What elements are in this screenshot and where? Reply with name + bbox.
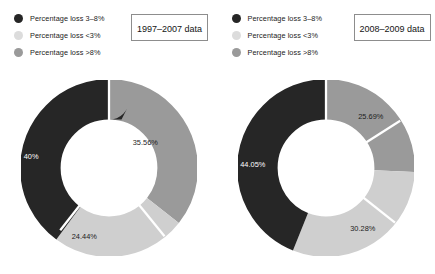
panel-title: 2008–2009 data <box>360 24 425 34</box>
legend-item-loss-gt8: Percentage loss >8% <box>232 47 322 58</box>
legend-swatch-light-icon <box>14 31 23 40</box>
legend-item-label: Percentage loss <3% <box>248 31 319 40</box>
legend-item-label: Percentage loss 3–8% <box>248 14 322 23</box>
panel-title: 1997–2007 data <box>137 24 202 34</box>
legend-left: Percentage loss 3–8% Percentage loss <3%… <box>14 13 104 58</box>
panel-title-box-right: 2008–2009 data <box>354 14 431 41</box>
legend-item-loss-3-8: Percentage loss 3–8% <box>232 13 322 24</box>
legend-item-loss-lt3: Percentage loss <3% <box>14 30 104 41</box>
donut-area-right: 25.69% 30.28% 44.05% <box>218 78 435 274</box>
legend-item-loss-3-8: Percentage loss 3–8% <box>14 13 104 24</box>
legend-item-loss-gt8: Percentage loss >8% <box>14 47 104 58</box>
legend-item-label: Percentage loss >8% <box>30 48 101 57</box>
legend-swatch-medium-icon <box>232 48 241 57</box>
legend-swatch-light-icon <box>232 31 241 40</box>
legend-item-label: Percentage loss <3% <box>30 31 101 40</box>
legend-item-loss-lt3: Percentage loss <3% <box>232 30 322 41</box>
legend-swatch-dark-icon <box>232 14 241 23</box>
donut-chart-figure: Percentage loss 3–8% Percentage loss <3%… <box>0 0 435 274</box>
panel-title-box-left: 1997–2007 data <box>131 14 208 41</box>
legend-item-label: Percentage loss >8% <box>248 48 319 57</box>
donut-chart-right: 25.69% 30.28% 44.05% <box>238 80 414 256</box>
legend-swatch-medium-icon <box>14 48 23 57</box>
legend-right: Percentage loss 3–8% Percentage loss <3%… <box>232 13 322 58</box>
legend-swatch-dark-icon <box>14 14 23 23</box>
donut-chart-left: 35.56% 24.44% 40% <box>21 80 197 256</box>
chart-panel-left: Percentage loss 3–8% Percentage loss <3%… <box>0 0 218 274</box>
donut-area-left: 35.56% 24.44% 40% <box>0 78 218 274</box>
chart-panel-right: Percentage loss 3–8% Percentage loss <3%… <box>218 0 435 274</box>
legend-item-label: Percentage loss 3–8% <box>30 14 104 23</box>
